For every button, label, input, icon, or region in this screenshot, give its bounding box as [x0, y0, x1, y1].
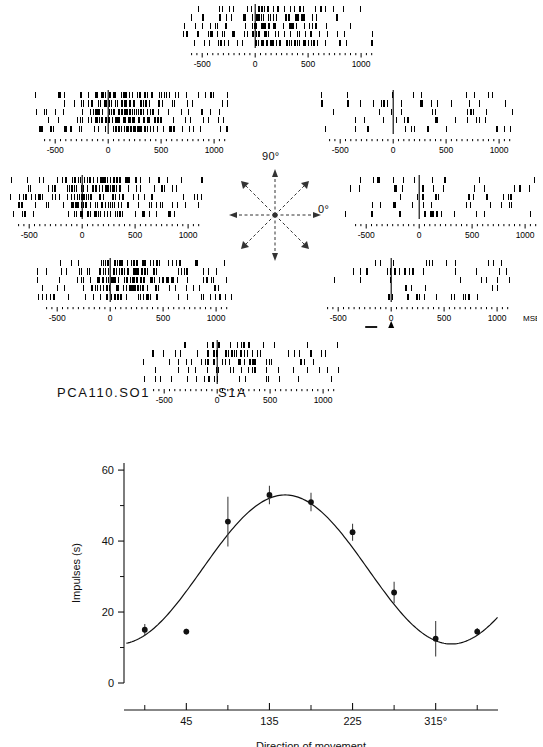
raster-tick-label: -500 — [49, 313, 66, 323]
raster-tick-label: -500 — [194, 59, 211, 69]
raster-panel-225: -50005001000 — [36, 258, 256, 328]
raster-tick-label: 500 — [263, 395, 277, 405]
raster-tick-label: 1000 — [352, 59, 371, 69]
raster-tick-label: 500 — [439, 145, 453, 155]
raster-tick-label: -500 — [358, 230, 375, 240]
raster-tick-label: 500 — [437, 313, 451, 323]
raster-tick-label: 0 — [417, 230, 422, 240]
raster-panel-135: -50005001000 — [34, 90, 254, 160]
raster-tick-label: 1000 — [488, 313, 507, 323]
raster-panel-0: -50005001000 — [345, 175, 543, 245]
x-tick-label: 45 — [180, 715, 192, 727]
data-point — [183, 629, 189, 635]
data-point — [433, 621, 439, 656]
raster-tick-label: 500 — [301, 59, 315, 69]
raster-tick-label: -500 — [156, 395, 173, 405]
raster-panel-270: -50005001000MSECTM — [317, 258, 537, 328]
raster-tick-label: -500 — [330, 313, 347, 323]
x-tick-label: 225 — [343, 715, 361, 727]
raster-tick-label: 0 — [253, 59, 258, 69]
y-tick-label: 0 — [108, 677, 114, 689]
raster-tick-label: 1000 — [179, 230, 198, 240]
raster-tick-label: 0 — [106, 145, 111, 155]
raster-tick-label: 0 — [80, 230, 85, 240]
raster-tick-label: 500 — [156, 313, 170, 323]
compass-label-right: 0° — [318, 203, 329, 215]
data-point — [267, 486, 273, 504]
data-point — [350, 524, 356, 541]
raster-tick-label: 1000 — [207, 313, 226, 323]
raster-tick-label: -500 — [332, 145, 349, 155]
direction-compass — [225, 165, 325, 269]
compass-label-top: 90° — [262, 150, 280, 162]
raster-tick-label: -500 — [47, 145, 64, 155]
x-tick-label: 135 — [260, 715, 278, 727]
data-point — [391, 582, 397, 603]
raster-tick-label: 500 — [465, 230, 479, 240]
raster-tick-label: 1000 — [205, 145, 224, 155]
figure-root: -50005001000 -50005001000 -50005001000 -… — [0, 0, 543, 747]
x-axis-title: Direction of movement — [256, 740, 366, 747]
raster-tick-label: -500 — [21, 230, 38, 240]
raster-panel-180: -50005001000 — [8, 175, 228, 245]
y-tick-label: 20 — [102, 606, 114, 618]
y-tick-label: 40 — [102, 535, 114, 547]
data-point — [308, 493, 314, 511]
y-tick-label: 60 — [102, 464, 114, 476]
raster-panel-90: -50005001000 — [181, 4, 401, 74]
raster-unit-label: MSEC — [523, 314, 537, 323]
raster-panel-45: -50005001000 — [319, 90, 539, 160]
raster-tick-label: 500 — [154, 145, 168, 155]
data-point — [225, 497, 231, 547]
raster-tick-label: 1000 — [516, 230, 535, 240]
unit-id-label: PCA110.SO1 — [57, 385, 150, 400]
tuning-curve-plot: 020406045135225315° Direction of movemen… — [0, 430, 543, 747]
raster-tick-label: 500 — [128, 230, 142, 240]
condition-label: S1A — [218, 385, 247, 400]
x-tick-label: 315° — [424, 715, 447, 727]
raster-tick-label: 1000 — [314, 395, 333, 405]
raster-tick-label: 0 — [391, 145, 396, 155]
raster-tick-label: 1000 — [490, 145, 509, 155]
y-axis-title: Impulses (s) — [70, 543, 82, 603]
raster-panel-315: -50005001000 — [143, 340, 363, 410]
raster-tick-label: 0 — [108, 313, 113, 323]
